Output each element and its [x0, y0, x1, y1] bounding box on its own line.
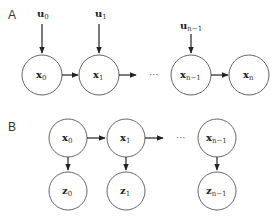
node-a-xn1: xn−1 — [171, 55, 211, 95]
ellipsis-b: ··· — [176, 132, 186, 143]
ellipsis-a: ··· — [149, 69, 159, 80]
node-b-z0: z0 — [49, 172, 87, 210]
node-b-x1: x1 — [107, 119, 145, 157]
node-b-zn1: zn−1 — [198, 172, 236, 210]
node-b-z1: z1 — [107, 172, 145, 210]
diagram-canvas: A u0 u1 un−1 x0 x1 xn−1 xn ··· B x0 x1 x… — [0, 0, 276, 222]
node-a-x0: x0 — [22, 55, 62, 95]
input-u1-label: u1 — [95, 8, 107, 21]
node-a-xn: xn — [229, 55, 269, 95]
node-b-xn1: xn−1 — [198, 119, 236, 157]
panel-a-label: A — [8, 8, 16, 22]
input-un1-label: un−1 — [180, 20, 202, 33]
node-b-x0: x0 — [49, 119, 87, 157]
panel-b-label: B — [8, 120, 16, 134]
node-a-x1: x1 — [79, 55, 119, 95]
input-u0-label: u0 — [37, 8, 49, 21]
